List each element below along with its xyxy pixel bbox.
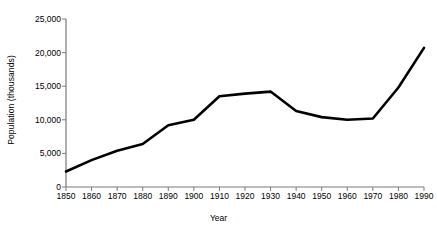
line-chart: Population (thousands) 05,00010,00015,00…: [0, 0, 437, 236]
plot-area: [0, 0, 437, 236]
axis-lines: [66, 19, 424, 187]
axis-tick-marks: [62, 19, 424, 191]
population-line-series: [66, 48, 424, 172]
